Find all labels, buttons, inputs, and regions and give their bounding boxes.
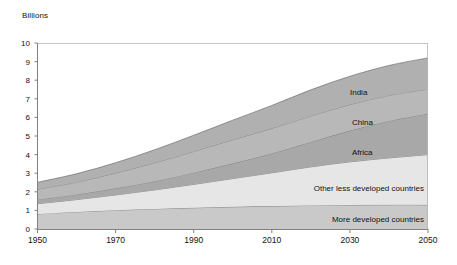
y-tick-label: 7 bbox=[14, 94, 30, 103]
x-tick-label: 2010 bbox=[252, 235, 292, 245]
x-tick-label: 2050 bbox=[408, 235, 448, 245]
x-tick-label: 1950 bbox=[18, 235, 58, 245]
series-label-more-developed-countries: More developed countries bbox=[332, 215, 424, 224]
y-tick-label: 2 bbox=[14, 187, 30, 196]
y-tick-label: 10 bbox=[14, 39, 30, 48]
x-tick-label: 2030 bbox=[330, 235, 370, 245]
population-area-chart: Billions 012345678910 195019701990201020… bbox=[0, 0, 457, 265]
y-tick-label: 5 bbox=[14, 132, 30, 141]
y-tick-label: 4 bbox=[14, 150, 30, 159]
x-tick-label: 1990 bbox=[174, 235, 214, 245]
y-tick-label: 1 bbox=[14, 206, 30, 215]
plot-area: 012345678910 195019701990201020302050 In… bbox=[0, 0, 457, 265]
series-label-other-less-developed-countries: Other less developed countries bbox=[314, 184, 424, 193]
chart-svg bbox=[0, 0, 457, 265]
y-tick-label: 0 bbox=[14, 225, 30, 234]
series-label-china: China bbox=[352, 118, 373, 127]
y-tick-label: 9 bbox=[14, 57, 30, 66]
y-tick-label: 3 bbox=[14, 169, 30, 178]
x-tick-label: 1970 bbox=[96, 235, 136, 245]
series-label-india: India bbox=[350, 88, 367, 97]
stacked-areas bbox=[38, 58, 429, 229]
y-tick-label: 6 bbox=[14, 113, 30, 122]
y-tick-label: 8 bbox=[14, 76, 30, 85]
series-label-africa: Africa bbox=[352, 148, 372, 157]
